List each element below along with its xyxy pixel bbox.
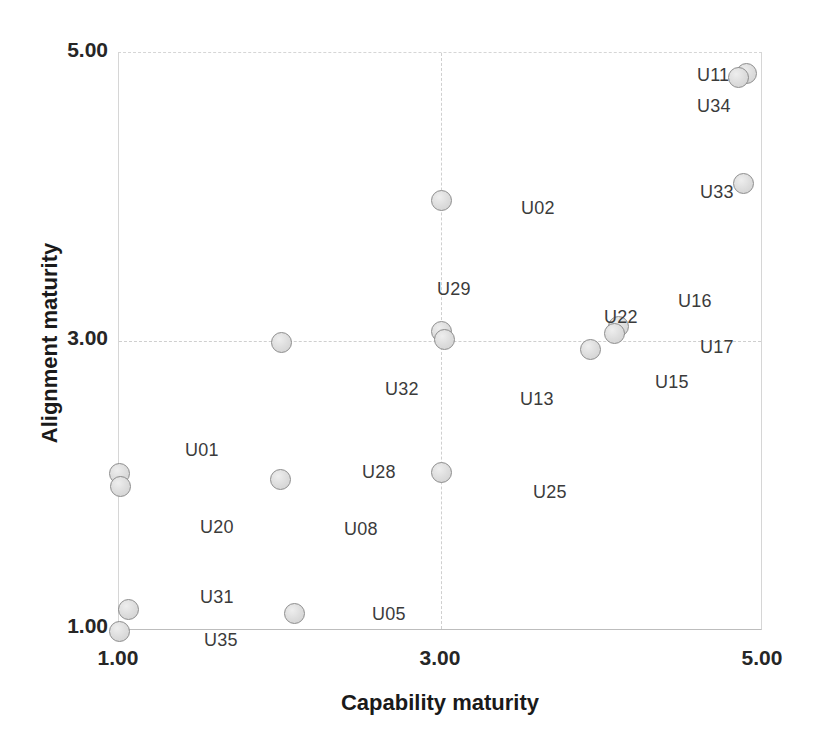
y-tick-5: 5.00: [67, 38, 108, 62]
point-label-u17: U17: [700, 337, 734, 358]
data-point-u13: [434, 329, 455, 350]
point-label-u02: U02: [521, 198, 555, 219]
point-label-u22: U22: [604, 307, 638, 328]
point-label-u29: U29: [437, 279, 471, 300]
x-tick-5: 5.00: [742, 646, 783, 670]
point-label-u34: U34: [697, 96, 731, 117]
point-label-u08: U08: [344, 519, 378, 540]
data-point-u20: [110, 476, 131, 497]
point-label-u15: U15: [655, 372, 689, 393]
y-tick-3: 3.00: [67, 326, 108, 350]
x-tick-3: 3.00: [420, 646, 461, 670]
point-label-u05: U05: [372, 604, 406, 625]
point-label-u33: U33: [700, 182, 734, 203]
point-label-u25: U25: [533, 482, 567, 503]
x-axis-title: Capability maturity: [118, 690, 762, 716]
point-label-u35: U35: [204, 630, 238, 651]
point-label-u20: U20: [200, 517, 234, 538]
x-tick-1: 1.00: [98, 646, 139, 670]
point-label-u16: U16: [678, 291, 712, 312]
data-point-u02: [431, 190, 452, 211]
point-label-u11: U11: [697, 65, 729, 86]
data-point-u34: [728, 67, 749, 88]
y-tick-1: 1.00: [67, 614, 108, 638]
plot-area: [118, 52, 762, 630]
data-point-u35: [109, 621, 130, 642]
point-label-u01: U01: [185, 440, 219, 461]
point-label-u32: U32: [385, 379, 419, 400]
data-point-u08: [270, 469, 291, 490]
data-point-u33: [733, 173, 754, 194]
data-point-u17: [580, 339, 601, 360]
data-point-u32: [271, 332, 292, 353]
point-label-u28: U28: [362, 462, 396, 483]
point-label-u31: U31: [200, 587, 234, 608]
y-axis-title: Alignment maturity: [37, 198, 63, 488]
scatter-plot-figure: 5.00 3.00 1.00 Alignment maturity U11U34…: [0, 0, 816, 735]
data-point-u25: [431, 462, 452, 483]
point-label-u13: U13: [520, 389, 554, 410]
data-point-u05: [284, 603, 305, 624]
data-point-u31: [118, 599, 139, 620]
